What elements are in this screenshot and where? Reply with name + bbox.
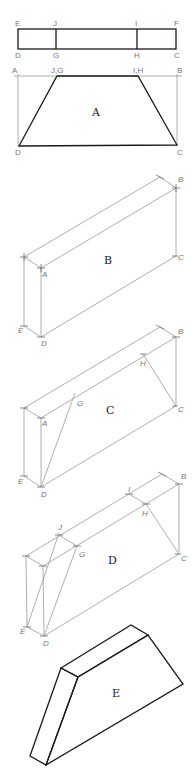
point-label-b: B	[178, 175, 184, 184]
point-label-b: B	[177, 66, 182, 75]
figure-b: A B C E D B	[18, 175, 184, 348]
point-label-h: H	[142, 509, 148, 518]
box-edge	[24, 177, 160, 257]
point-label-jg: J,G	[51, 66, 63, 75]
point-label-e: E	[20, 627, 26, 636]
tick-marks	[20, 175, 180, 337]
point-label-d: D	[41, 339, 47, 348]
box-edge-jg	[59, 535, 77, 546]
point-label-c: C	[178, 253, 184, 262]
box-edge	[41, 406, 176, 487]
figure-a: A J,G I,H B D C A	[12, 66, 183, 157]
box-edge	[26, 556, 27, 627]
slope-line-g	[41, 393, 75, 487]
point-label-b: B	[178, 327, 184, 336]
point-label-a: A	[12, 66, 18, 75]
point-label-d: D	[41, 490, 47, 499]
slope-line-g	[44, 546, 77, 636]
point-label-d: D	[15, 148, 21, 157]
figure-label: B	[104, 254, 112, 267]
box-edge	[24, 326, 41, 337]
figure-label: D	[108, 554, 117, 567]
point-label-c: C	[178, 405, 184, 414]
point-label-h: H	[140, 359, 146, 368]
slope-line-h	[143, 354, 176, 406]
front-face	[46, 635, 183, 765]
point-label-e: E	[18, 477, 24, 486]
point-label-b: B	[181, 472, 187, 481]
figure-label: C	[106, 404, 114, 417]
top-face	[61, 625, 148, 677]
point-label-c: C	[181, 554, 187, 563]
point-label-i: I	[135, 19, 137, 28]
point-label-j: J	[53, 19, 57, 28]
slope-line-j	[27, 533, 59, 627]
box-edge	[41, 256, 176, 337]
point-label-e: E	[15, 19, 20, 28]
point-label-g: G	[77, 399, 83, 408]
point-label-j: J	[57, 523, 63, 532]
figure-label: A	[91, 106, 101, 119]
slope-line-h	[146, 504, 179, 554]
box-edge-ih	[129, 494, 146, 504]
point-label-f: F	[174, 19, 179, 28]
point-label-a: A	[41, 270, 47, 279]
point-label-ih: I,H	[133, 66, 143, 75]
figure-label: E	[112, 687, 120, 700]
point-label-c: C	[177, 148, 183, 157]
point-label-h: H	[134, 51, 140, 60]
point-label-e: E	[18, 326, 24, 335]
point-label-d: D	[43, 639, 49, 648]
top-view-rectangle	[18, 29, 176, 49]
point-label-c: C	[174, 51, 180, 60]
point-label-d: D	[15, 51, 21, 60]
box-edge	[24, 257, 41, 268]
point-label-g: G	[53, 51, 59, 60]
figure-e: E	[30, 625, 183, 765]
box-edge	[26, 556, 43, 566]
point-label-g: G	[79, 550, 85, 559]
box-edge	[24, 476, 41, 487]
box-edge	[160, 177, 176, 188]
isometric-construction-diagram: E J I F D G H C A J,G I,H B D C A	[0, 0, 196, 778]
top-view: E J I F D G H C	[15, 19, 180, 60]
box-edge	[27, 627, 44, 636]
point-label-a: A	[41, 419, 47, 428]
box-edge	[24, 408, 41, 418]
